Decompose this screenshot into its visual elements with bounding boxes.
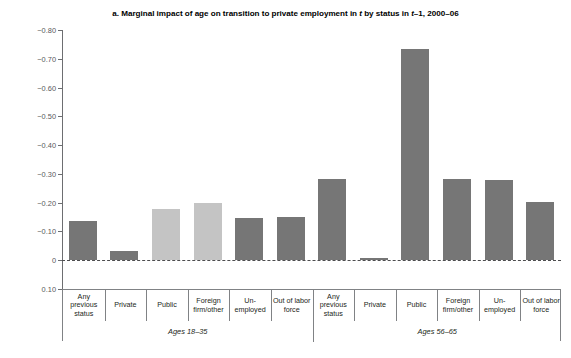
category-label: Any previous status [63, 290, 105, 321]
category-label-table: Any previous statusPrivatePublicForeign … [62, 289, 561, 341]
chart-title-part-3: –1, 2000–06 [414, 9, 459, 18]
y-axis-tick-mark [58, 203, 62, 204]
y-axis-tick-label: −0.20 [37, 198, 56, 207]
category-divider [437, 290, 438, 321]
group-label: Ages 56–65 [313, 323, 563, 340]
bar [194, 203, 222, 261]
bar [401, 49, 429, 260]
bar [277, 217, 305, 260]
zero-baseline [62, 260, 561, 261]
y-axis-tick-mark [58, 88, 62, 89]
y-axis-tick-mark [58, 145, 62, 146]
category-label: Any previous status [313, 290, 355, 321]
bar [443, 179, 471, 260]
y-axis-tick-label: −0.70 [37, 54, 56, 63]
bar [485, 180, 513, 260]
category-label: Public [146, 290, 188, 321]
category-label: Private [105, 290, 147, 321]
y-axis-tick-label: 0 [52, 256, 56, 265]
y-axis-tick-label: −0.60 [37, 83, 56, 92]
category-label: Un-employed [479, 290, 521, 321]
bar [110, 251, 138, 260]
y-axis-tick-label: −0.50 [37, 112, 56, 121]
y-axis-tick-mark [58, 174, 62, 175]
y-axis-tick-mark [58, 30, 62, 31]
y-axis-tick-label: −0.80 [37, 26, 56, 35]
category-divider [105, 290, 106, 321]
category-divider [229, 290, 230, 321]
bar [526, 202, 554, 260]
y-axis-tick-label: −0.30 [37, 169, 56, 178]
bar [69, 221, 97, 260]
bar [318, 179, 346, 260]
figure-panel-a: a. Marginal impact of age on transition … [0, 0, 571, 358]
y-axis-tick-label: −0.40 [37, 141, 56, 150]
y-axis-tick-label: −0.10 [37, 227, 56, 236]
category-divider [271, 290, 272, 321]
bar [152, 209, 180, 260]
y-axis-spine [62, 30, 63, 289]
category-divider [354, 290, 355, 321]
category-label: Out of labor force [271, 290, 313, 321]
bar [235, 218, 263, 261]
category-label: Un-employed [229, 290, 271, 321]
y-axis-tick-label: 0.10 [42, 285, 56, 294]
category-label: Out of labor force [520, 290, 562, 321]
group-label: Ages 18–35 [63, 323, 313, 340]
category-label: Foreign firm/other [188, 290, 230, 321]
y-axis-tick-mark [58, 231, 62, 232]
bar [360, 258, 388, 260]
category-label: Private [354, 290, 396, 321]
category-divider [188, 290, 189, 321]
category-divider [479, 290, 480, 321]
y-axis-tick-mark [58, 59, 62, 60]
category-divider [520, 290, 521, 321]
chart-title-part-1: a. Marginal impact of age on transition … [112, 9, 359, 18]
category-divider [396, 290, 397, 321]
plot-area: −0.80−0.70−0.60−0.50−0.40−0.30−0.20−0.10… [62, 30, 561, 289]
category-divider [146, 290, 147, 321]
category-label: Foreign firm/other [437, 290, 479, 321]
y-axis-tick-mark [58, 116, 62, 117]
chart-title: a. Marginal impact of age on transition … [0, 8, 571, 19]
chart-title-part-2: by status in [362, 9, 411, 18]
category-label: Public [396, 290, 438, 321]
